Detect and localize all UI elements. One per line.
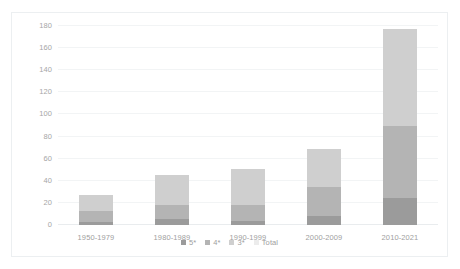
legend-item[interactable]: 3*	[229, 238, 244, 247]
plot-area: 180160140120100806040200 1950-19791980-1…	[58, 26, 438, 225]
legend-label: 5*	[189, 238, 196, 247]
bar-group[interactable]: 2000-2009	[307, 26, 342, 225]
bar-segment-4star[interactable]	[155, 205, 190, 219]
legend-item[interactable]: 4*	[205, 238, 220, 247]
y-axis-tick-label: 40	[43, 175, 52, 184]
bar-segment-5star[interactable]	[231, 221, 266, 225]
legend-swatch-icon	[229, 240, 234, 245]
y-axis-tick-label: 140	[39, 65, 52, 74]
bar-group[interactable]: 1990-1999	[231, 26, 266, 225]
bar-segment-3star[interactable]	[383, 29, 418, 125]
bar-segment-3star[interactable]	[155, 175, 190, 205]
chart-plot-frame: 180160140120100806040200 1950-19791980-1…	[11, 12, 448, 257]
bar-group[interactable]: 1950-1979	[79, 26, 114, 225]
y-axis-tick-label: 120	[39, 87, 52, 96]
bar-segment-5star[interactable]	[383, 198, 418, 225]
bar-segment-5star[interactable]	[155, 219, 190, 225]
legend-swatch-icon	[254, 240, 259, 245]
y-axis-tick-label: 20	[43, 197, 52, 206]
legend-swatch-icon	[181, 240, 186, 245]
y-axis-tick-label: 60	[43, 153, 52, 162]
legend-label: 3*	[237, 238, 244, 247]
bar-segment-5star[interactable]	[79, 222, 114, 225]
bar-stack[interactable]	[383, 29, 418, 225]
bar-group[interactable]: 1980-1989	[155, 26, 190, 225]
legend-label: Total	[262, 238, 278, 247]
bar-segment-4star[interactable]	[79, 211, 114, 222]
chart-legend: 5*4*3*Total	[12, 238, 447, 247]
y-axis-tick-label: 180	[39, 21, 52, 30]
bar-segment-3star[interactable]	[79, 195, 114, 210]
legend-label: 4*	[213, 238, 220, 247]
bar-segment-5star[interactable]	[307, 216, 342, 225]
y-axis-tick-label: 100	[39, 109, 52, 118]
bar-segment-3star[interactable]	[307, 149, 342, 188]
bar-stack[interactable]	[307, 149, 342, 225]
stacked-bar-chart: 180160140120100806040200 1950-19791980-1…	[0, 0, 460, 269]
legend-item[interactable]: Total	[254, 238, 278, 247]
legend-swatch-icon	[205, 240, 210, 245]
y-axis-tick-label: 160	[39, 43, 52, 52]
cut-off-header-text	[0, 0, 460, 11]
bar-segment-4star[interactable]	[307, 187, 342, 216]
y-axis-tick-label: 0	[48, 220, 52, 229]
bar-stack[interactable]	[155, 175, 190, 225]
bar-group[interactable]: 2010-2021	[383, 26, 418, 225]
bar-stack[interactable]	[231, 169, 266, 225]
bar-segment-4star[interactable]	[231, 205, 266, 220]
bar-segment-3star[interactable]	[231, 169, 266, 205]
y-axis-tick-label: 80	[43, 131, 52, 140]
legend-item[interactable]: 5*	[181, 238, 196, 247]
bars-layer: 1950-19791980-19891990-19992000-20092010…	[58, 26, 438, 225]
bar-stack[interactable]	[79, 195, 114, 225]
bar-segment-4star[interactable]	[383, 126, 418, 199]
